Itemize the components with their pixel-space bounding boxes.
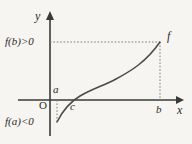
label-point-c: c bbox=[70, 101, 75, 112]
label-point-b: b bbox=[156, 104, 162, 115]
label-f-of-b: f(b)>0 bbox=[5, 36, 34, 47]
y-axis-arrowhead bbox=[46, 11, 54, 20]
label-origin: O bbox=[39, 100, 47, 111]
label-point-a: a bbox=[53, 84, 59, 95]
function-graph-figure: f(b)>0 f(a)<0 y x O a b c f bbox=[0, 0, 192, 144]
label-y-axis: y bbox=[35, 10, 40, 22]
label-curve-f: f bbox=[167, 30, 170, 42]
label-x-axis: x bbox=[177, 104, 182, 116]
label-f-of-a: f(a)<0 bbox=[5, 116, 34, 127]
